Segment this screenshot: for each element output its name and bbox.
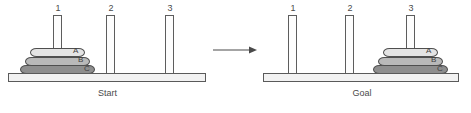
goal-peg-number-2: 2 <box>340 3 360 13</box>
goal-peg-number-3: 3 <box>401 3 421 13</box>
tower-of-hanoi-diagram: 1 2 3 A B C Start 1 2 3 <box>0 0 471 113</box>
goal-disk-label-b: B <box>431 55 436 64</box>
goal-disk-label-a: A <box>426 46 431 55</box>
base-platform <box>8 73 206 82</box>
goal-caption: Goal <box>253 88 471 98</box>
disk-label-c: C <box>84 64 90 73</box>
disk-label-b: B <box>78 55 83 64</box>
right-arrow-icon <box>213 44 257 56</box>
disk-label-a: A <box>73 46 78 55</box>
peg-3[interactable] <box>165 15 174 74</box>
goal-peg-number-1: 1 <box>283 3 303 13</box>
start-panel: 1 2 3 A B C Start <box>0 0 215 113</box>
peg-number-1: 1 <box>48 3 68 13</box>
goal-peg-1[interactable] <box>288 15 297 74</box>
peg-2[interactable] <box>106 15 115 74</box>
peg-number-3: 3 <box>160 3 180 13</box>
start-caption: Start <box>0 88 215 98</box>
goal-panel: 1 2 3 A B C Goal <box>253 0 471 113</box>
goal-base-platform <box>263 73 459 82</box>
goal-peg-2[interactable] <box>345 15 354 74</box>
goal-disk-label-c: C <box>437 64 443 73</box>
peg-number-2: 2 <box>101 3 121 13</box>
